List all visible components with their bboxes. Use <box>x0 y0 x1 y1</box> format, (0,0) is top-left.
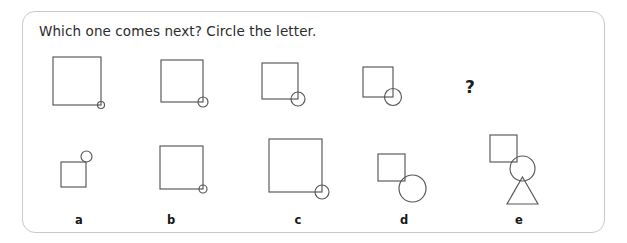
sequence-square-1 <box>53 57 101 105</box>
sequence-item-3 <box>258 59 309 110</box>
option-a-circle <box>81 151 92 162</box>
sequence-item-2 <box>157 56 212 111</box>
option-d-shapes[interactable] <box>375 151 429 205</box>
option-d-square <box>378 154 405 181</box>
sequence-item-1 <box>49 53 109 113</box>
option-letter-c[interactable]: c <box>288 213 308 227</box>
option-letter-e[interactable]: e <box>509 213 529 227</box>
missing-item-question-mark: ? <box>465 77 475 97</box>
worksheet-panel: Which one comes next? Circle the letter.… <box>22 11 605 233</box>
sequence-square-4 <box>363 67 393 97</box>
option-c-shapes[interactable] <box>266 136 332 202</box>
sequence-item-4 <box>359 63 406 110</box>
option-b-square <box>160 146 203 189</box>
option-letter-a[interactable]: a <box>69 213 89 227</box>
option-c-square <box>269 139 322 192</box>
option-letter-d[interactable]: d <box>394 213 414 227</box>
option-b-shapes[interactable] <box>157 143 210 196</box>
option-d-circle <box>399 175 426 202</box>
sequence-square-3 <box>262 63 298 99</box>
option-a-square <box>61 162 86 187</box>
option-e-shapes[interactable] <box>487 132 541 207</box>
sequence-square-2 <box>161 60 203 102</box>
prompt-text: Which one comes next? Circle the letter. <box>39 23 316 39</box>
option-e-square <box>490 135 517 162</box>
option-a-shapes[interactable] <box>58 148 95 190</box>
option-letter-b[interactable]: b <box>161 213 181 227</box>
